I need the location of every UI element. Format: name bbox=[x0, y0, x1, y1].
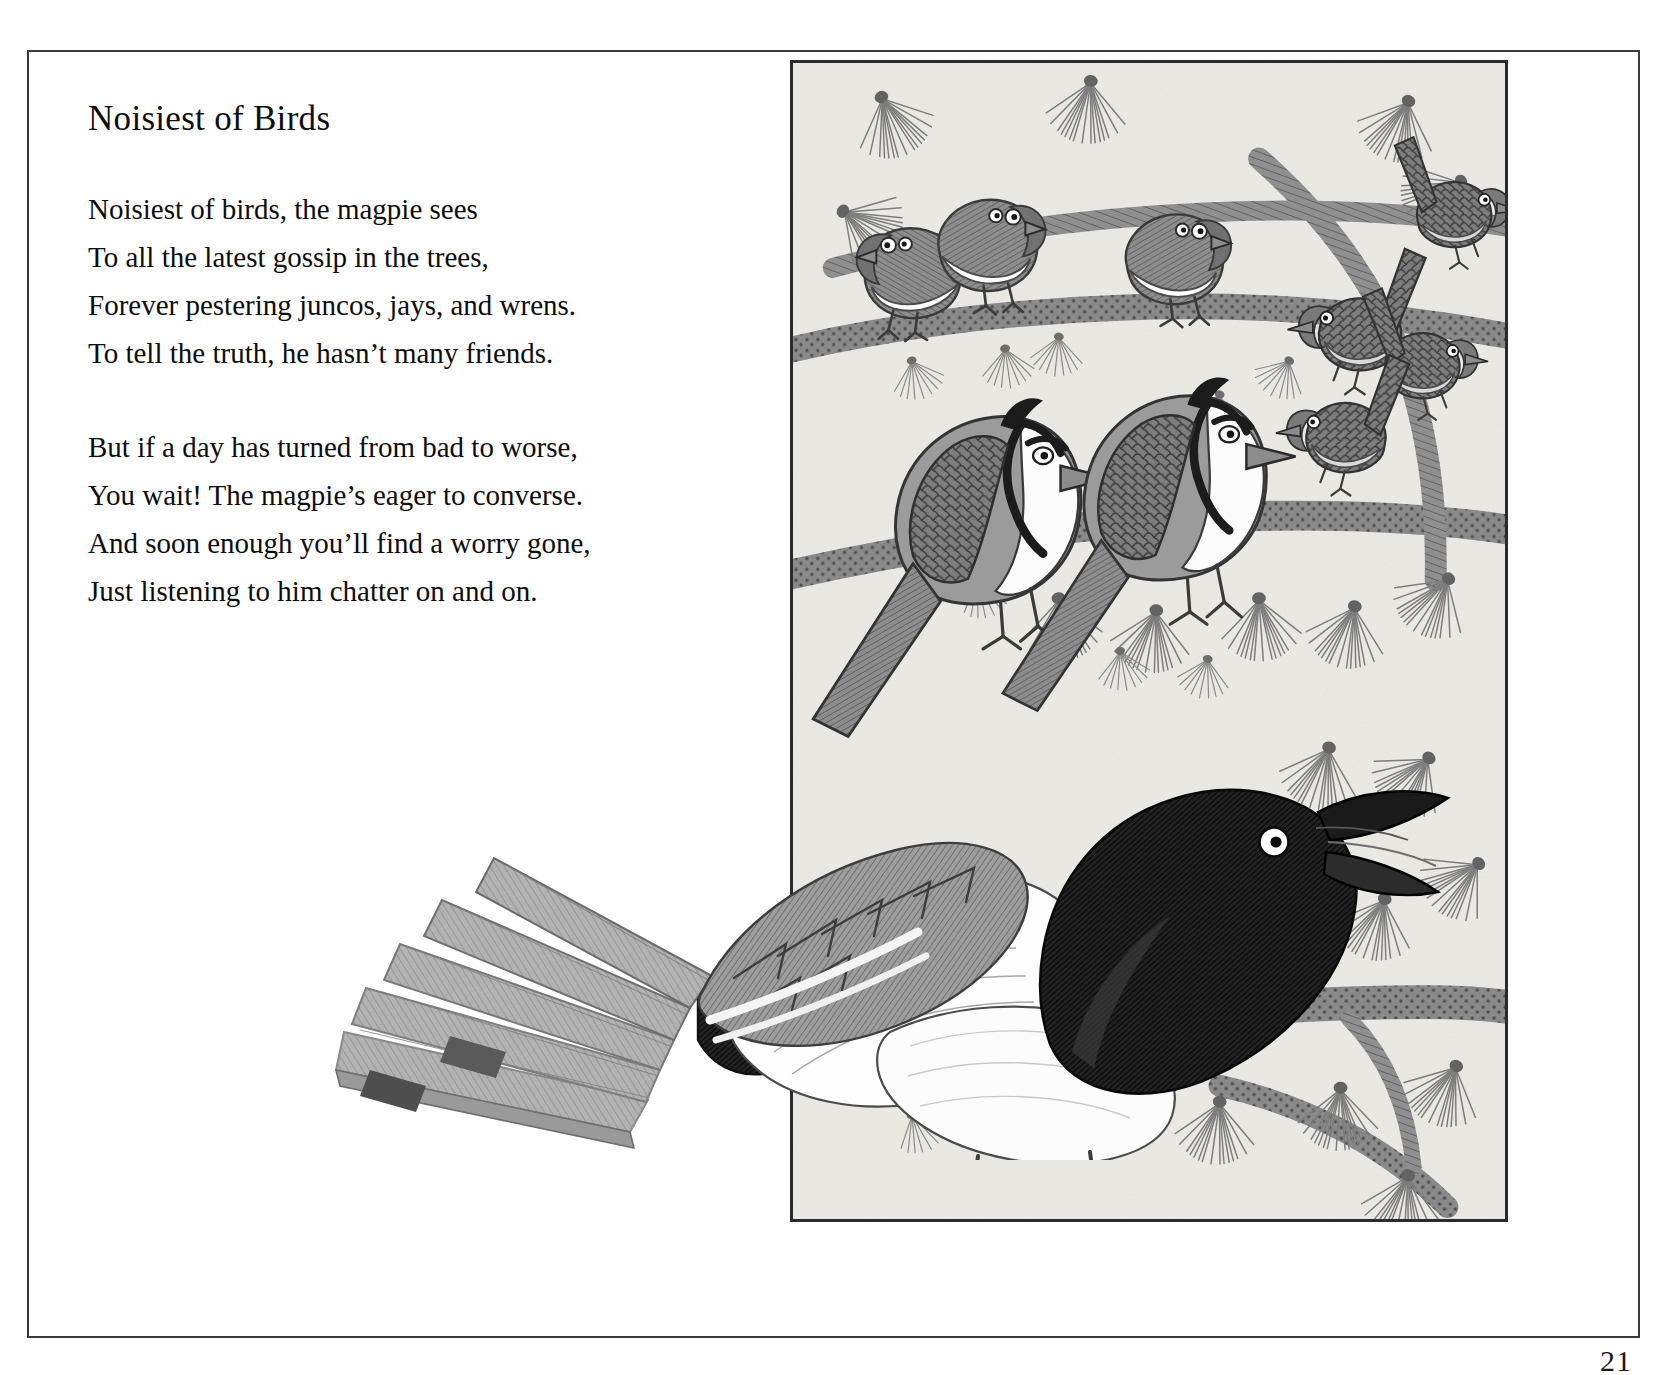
page-number: 21 bbox=[1600, 1344, 1632, 1375]
poem-line: To all the latest gossip in the trees, bbox=[88, 233, 748, 281]
poem-line: But if a day has turned from bad to wors… bbox=[88, 423, 748, 471]
illustration-artwork bbox=[793, 63, 1505, 1219]
poem-line: Noisiest of birds, the magpie sees bbox=[88, 185, 748, 233]
bird-illustration bbox=[790, 60, 1508, 1222]
poem-line: And soon enough you’ll find a worry gone… bbox=[88, 519, 748, 567]
poem-block: Noisiest of Birds Noisiest of birds, the… bbox=[88, 100, 748, 615]
poem-line: Just listening to him chatter on and on. bbox=[88, 567, 748, 615]
poem-stanza-1: Noisiest of birds, the magpie sees To al… bbox=[88, 185, 748, 377]
poem-line: Forever pestering juncos, jays, and wren… bbox=[88, 281, 748, 329]
poem-line: To tell the truth, he hasn’t many friend… bbox=[88, 329, 748, 377]
poem-line: You wait! The magpie’s eager to converse… bbox=[88, 471, 748, 519]
page-title: Noisiest of Birds bbox=[88, 100, 748, 139]
poem-stanza-2: But if a day has turned from bad to wors… bbox=[88, 423, 748, 615]
illustration-frame bbox=[790, 60, 1508, 1222]
